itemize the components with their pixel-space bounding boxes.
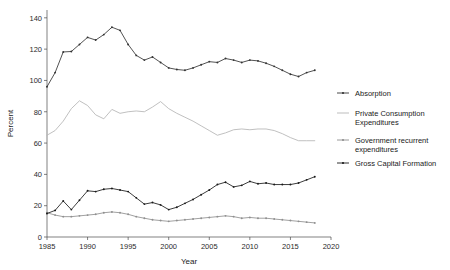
series-point	[111, 26, 113, 28]
legend-item-absorption[interactable]: Absorption	[337, 89, 391, 98]
y-tick-label: 40	[34, 170, 42, 179]
legend-item-gross-capital-formation[interactable]: Gross Capital Formation	[337, 159, 436, 168]
series-point	[289, 220, 291, 222]
series-point	[208, 216, 210, 218]
series-point	[168, 220, 170, 222]
legend-item-private-consumption-expenditures[interactable]: Private ConsumptionExpenditures	[337, 109, 425, 127]
series-point	[192, 198, 194, 200]
series-point	[306, 221, 308, 223]
series-point	[119, 29, 121, 31]
series-point	[314, 222, 316, 224]
legend-label: Absorption	[355, 89, 391, 98]
series-point	[257, 183, 259, 185]
series-point	[79, 215, 81, 217]
series-point	[103, 188, 105, 190]
series-point	[46, 213, 48, 215]
series-point	[62, 200, 64, 202]
x-tick-label: 2005	[201, 242, 218, 251]
series-line	[47, 212, 315, 223]
series-point	[225, 181, 227, 183]
series-point	[127, 213, 129, 215]
y-tick-label: 20	[34, 201, 42, 210]
series-private-consumption-expenditures	[47, 101, 315, 141]
series-point	[249, 216, 251, 218]
series-point	[135, 216, 137, 218]
series-point	[306, 179, 308, 181]
series-point	[281, 184, 283, 186]
series-point	[46, 86, 48, 88]
series-point	[79, 199, 81, 201]
series-point	[127, 43, 129, 45]
series-point	[176, 220, 178, 222]
series-point	[62, 51, 64, 53]
series-point	[265, 182, 267, 184]
series-point	[119, 189, 121, 191]
series-point	[225, 215, 227, 217]
series-line	[47, 177, 315, 214]
series-point	[103, 212, 105, 214]
series-point	[103, 34, 105, 36]
series-gross-capital-formation	[46, 176, 316, 215]
series-point	[160, 61, 162, 63]
legend-label: Gross Capital Formation	[355, 159, 436, 168]
series-point	[298, 182, 300, 184]
series-point	[314, 69, 316, 71]
series-point	[152, 56, 154, 58]
series-point	[192, 218, 194, 220]
series-point	[87, 190, 89, 192]
series-point	[216, 216, 218, 218]
series-point	[233, 186, 235, 188]
series-point	[216, 61, 218, 63]
series-point	[200, 64, 202, 66]
series-line	[47, 101, 315, 141]
series-point	[233, 216, 235, 218]
series-point	[70, 216, 72, 218]
series-point	[184, 202, 186, 204]
series-point	[289, 73, 291, 75]
series-point	[273, 184, 275, 186]
series-point	[208, 189, 210, 191]
series-point	[273, 65, 275, 67]
legend-label: Government recurrent	[355, 136, 429, 145]
x-tick-label: 1995	[120, 242, 137, 251]
x-tick-label: 2015	[282, 242, 299, 251]
series-point	[95, 39, 97, 41]
series-point	[54, 214, 56, 216]
legend-swatch-marker	[342, 92, 344, 94]
series-point	[281, 69, 283, 71]
series-point	[241, 217, 243, 219]
y-tick-label: 120	[29, 45, 42, 54]
series-point	[298, 220, 300, 222]
y-tick-label: 100	[29, 76, 42, 85]
legend-item-government-recurrent-expenditures[interactable]: Government recurrentexpenditures	[337, 136, 429, 154]
series-point	[298, 76, 300, 78]
legend-label-line2: Expenditures	[355, 118, 399, 127]
x-tick-label: 1990	[79, 242, 96, 251]
series-point	[95, 213, 97, 215]
series-point	[208, 61, 210, 63]
series-point	[111, 211, 113, 213]
series-point	[160, 220, 162, 222]
series-absorption	[46, 26, 316, 87]
series-point	[192, 67, 194, 69]
series-point	[135, 54, 137, 56]
legend-swatch-marker	[342, 139, 344, 141]
series-point	[135, 197, 137, 199]
series-government-recurrent-expenditures	[46, 211, 316, 224]
series-point	[119, 212, 121, 214]
series-point	[54, 72, 56, 74]
series-point	[168, 67, 170, 69]
series-point	[249, 180, 251, 182]
legend-label-line2: expenditures	[355, 145, 398, 154]
y-tick-label: 60	[34, 139, 42, 148]
series-point	[62, 216, 64, 218]
y-tick-label: 80	[34, 108, 42, 117]
series-point	[200, 217, 202, 219]
series-point	[200, 194, 202, 196]
series-point	[176, 206, 178, 208]
series-point	[143, 217, 145, 219]
series-point	[152, 219, 154, 221]
series-point	[257, 217, 259, 219]
series-point	[233, 59, 235, 61]
series-point	[184, 219, 186, 221]
